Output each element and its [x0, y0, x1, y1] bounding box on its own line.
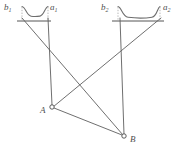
- diagram-svg: [0, 0, 177, 155]
- station-node-A[interactable]: [50, 105, 54, 109]
- station-node-B[interactable]: [122, 134, 126, 138]
- catenary-curve-right: [118, 7, 160, 19]
- sight-line-group: [22, 18, 161, 135]
- label-point-B: B: [130, 135, 136, 144]
- diagram-canvas: b1 a1 b2 a2 A B: [0, 0, 177, 155]
- sight-line-b2-to-B: [120, 18, 124, 134]
- label-b2: b2: [101, 3, 109, 13]
- left-baseline-group: [17, 7, 51, 22]
- sight-line-b1-to-B: [22, 18, 123, 135]
- label-b1: b1: [4, 3, 12, 13]
- catenary-curve-left: [22, 7, 48, 17]
- sight-line-a1-to-A: [48, 18, 52, 105]
- label-a2: a2: [163, 3, 171, 13]
- label-a1: a1: [50, 3, 58, 13]
- sight-line-a2-to-A: [53, 18, 161, 107]
- label-point-A: A: [40, 106, 46, 115]
